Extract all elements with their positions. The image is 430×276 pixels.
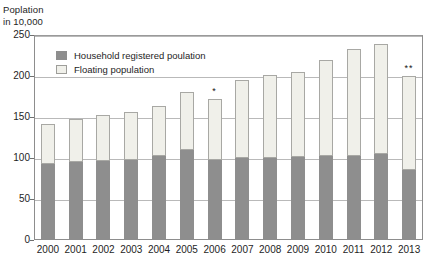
bar-2003 xyxy=(124,112,138,240)
bar-2012 xyxy=(374,44,388,240)
bar-2009 xyxy=(291,72,305,240)
population-stacked-bar-chart: Poplation in 10,000 050100150200250 *** … xyxy=(0,0,430,276)
y-tick-label-200: 200 xyxy=(0,71,30,81)
x-tick-label-2008: 2008 xyxy=(259,244,281,256)
bar-2007 xyxy=(235,80,249,240)
y-tick-label-100: 100 xyxy=(0,153,30,163)
bar-segment-floating-2011 xyxy=(347,49,361,156)
y-tick-label-50: 50 xyxy=(0,194,30,204)
bar-segment-household-2012 xyxy=(374,154,388,240)
x-tick-label-2000: 2000 xyxy=(37,244,59,256)
bar-segment-household-2008 xyxy=(263,158,277,240)
y-tick-mark-0 xyxy=(30,240,34,241)
bar-segment-household-2007 xyxy=(235,158,249,240)
legend-item-household: Household registered poulation xyxy=(56,50,206,61)
bar-segment-household-2005 xyxy=(180,150,194,240)
bar-segment-floating-2010 xyxy=(319,60,333,157)
x-tick-label-2001: 2001 xyxy=(65,244,87,256)
bar-segment-floating-2008 xyxy=(263,75,277,158)
bar-2013: ** xyxy=(402,76,416,240)
bar-2001 xyxy=(69,119,83,240)
x-tick-label-2006: 2006 xyxy=(203,244,225,256)
bar-segment-floating-2006 xyxy=(208,99,222,161)
bar-segment-floating-2012 xyxy=(374,44,388,154)
bar-segment-floating-2004 xyxy=(152,106,166,156)
legend-label-floating: Floating population xyxy=(74,64,154,75)
legend-label-household: Household registered poulation xyxy=(74,50,206,61)
bar-segment-floating-2003 xyxy=(124,112,138,160)
bar-segment-floating-2013 xyxy=(402,76,416,170)
bar-segment-household-2003 xyxy=(124,160,138,240)
bar-2004 xyxy=(152,106,166,240)
bar-segment-household-2000 xyxy=(41,164,55,240)
bar-2006: * xyxy=(208,99,222,240)
x-tick-label-2004: 2004 xyxy=(148,244,170,256)
bar-segment-floating-2007 xyxy=(235,80,249,158)
bar-segment-household-2011 xyxy=(347,156,361,240)
x-tick-label-2012: 2012 xyxy=(370,244,392,256)
x-tick-label-2005: 2005 xyxy=(176,244,198,256)
legend-item-floating: Floating population xyxy=(56,64,206,75)
bar-segment-floating-2000 xyxy=(41,124,55,163)
bar-2011 xyxy=(347,49,361,240)
bar-segment-floating-2009 xyxy=(291,72,305,157)
x-tick-label-2009: 2009 xyxy=(287,244,309,256)
floating-swatch-icon xyxy=(56,65,67,74)
bar-2005 xyxy=(180,92,194,240)
y-tick-label-250: 250 xyxy=(0,30,30,40)
x-tick-label-2003: 2003 xyxy=(120,244,142,256)
y-axis-labels: 050100150200250 xyxy=(0,0,30,276)
x-tick-label-2013: 2013 xyxy=(398,244,420,256)
x-tick-label-2002: 2002 xyxy=(92,244,114,256)
bar-segment-floating-2001 xyxy=(69,119,83,162)
y-tick-label-150: 150 xyxy=(0,112,30,122)
bar-segment-household-2006 xyxy=(208,160,222,240)
bar-segment-household-2009 xyxy=(291,157,305,240)
y-tick-label-0: 0 xyxy=(0,235,30,245)
chart-legend: Household registered poulation Floating … xyxy=(56,50,206,75)
x-tick-label-2010: 2010 xyxy=(315,244,337,256)
bar-2000 xyxy=(41,124,55,240)
bar-annotation-2013: ** xyxy=(405,64,414,73)
bar-segment-floating-2002 xyxy=(96,115,110,161)
x-tick-label-2007: 2007 xyxy=(231,244,253,256)
bar-segment-household-2013 xyxy=(402,170,416,240)
bar-segment-household-2004 xyxy=(152,156,166,240)
bar-segment-household-2002 xyxy=(96,161,110,240)
bar-segment-household-2001 xyxy=(69,162,83,240)
x-axis-labels: 2000200120022003200420052006200720082009… xyxy=(34,244,423,262)
bar-2002 xyxy=(96,115,110,240)
bar-annotation-2006: * xyxy=(212,87,217,96)
x-tick-label-2011: 2011 xyxy=(343,244,365,256)
bar-2010 xyxy=(319,60,333,240)
bar-segment-floating-2005 xyxy=(180,92,194,150)
bar-segment-household-2010 xyxy=(319,156,333,240)
household-swatch-icon xyxy=(56,51,67,60)
bar-2008 xyxy=(263,75,277,240)
